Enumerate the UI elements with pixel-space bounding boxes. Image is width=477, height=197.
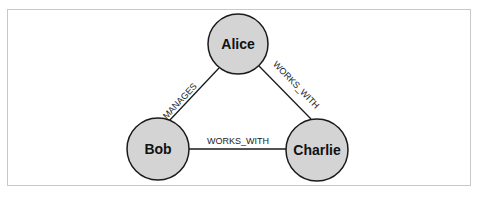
node-alice: Alice bbox=[208, 14, 268, 74]
graph-canvas: MANAGES WORKS_WITH WORKS_WITH Alice Bob … bbox=[0, 0, 477, 197]
node-bob: Bob bbox=[127, 118, 189, 180]
edge-alice-charlie: WORKS_WITH bbox=[259, 59, 321, 119]
edge-label-works-with-horizontal: WORKS_WITH bbox=[207, 136, 269, 146]
edge-bob-charlie: WORKS_WITH bbox=[189, 136, 286, 149]
edge-alice-bob: MANAGES bbox=[161, 68, 219, 121]
edge-label-manages: MANAGES bbox=[161, 81, 199, 121]
node-label-alice: Alice bbox=[221, 36, 255, 52]
node-label-charlie: Charlie bbox=[293, 142, 341, 158]
node-charlie: Charlie bbox=[286, 119, 348, 181]
node-label-bob: Bob bbox=[144, 141, 171, 157]
